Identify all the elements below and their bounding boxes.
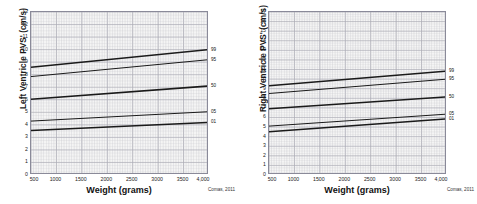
x-tick-label: 1500: [313, 176, 325, 182]
x-tick-label: 2500: [364, 176, 376, 182]
y-tick-label: 9: [25, 58, 28, 64]
percentile-label-01: 01: [211, 119, 216, 124]
x-tick-label: 2000: [339, 176, 351, 182]
y-tick-label: 1: [25, 158, 28, 164]
y-tick-label: 17: [260, 8, 266, 14]
percentile-label-50: 50: [211, 82, 216, 87]
y-tick-label: 2: [263, 152, 266, 158]
percentile-label-01: 01: [449, 115, 454, 120]
y-tick-label: 5: [25, 108, 28, 114]
x-axis-title-left: Weight (grams): [20, 185, 218, 195]
plot-area-right: [268, 11, 446, 174]
y-axis-tick-labels-right: 01234567891011121314151617: [246, 11, 266, 174]
x-axis-title-right: Weight (grams): [258, 185, 456, 195]
percentile-line-50: [31, 86, 208, 99]
y-tick-label: 0: [25, 171, 28, 177]
x-tick-label: 1000: [50, 176, 62, 182]
x-tick-label: 3000: [151, 176, 163, 182]
y-tick-label: 2: [25, 146, 28, 152]
y-tick-label: 7: [25, 83, 28, 89]
citation-left: Comas, 2011: [208, 187, 235, 192]
percentile-line-05: [269, 114, 446, 126]
x-tick-label: 3500: [415, 176, 427, 182]
x-tick-label: 1500: [75, 176, 87, 182]
y-tick-label: 13: [22, 8, 28, 14]
right-ventricle-chart-panel: Right Ventricle PVS' (cm/s) 012345678910…: [238, 0, 477, 204]
y-tick-label: 11: [261, 66, 266, 72]
percentile-line-99: [269, 71, 446, 86]
percentile-label-95: 95: [211, 56, 216, 61]
x-tick-label: 2000: [101, 176, 113, 182]
percentile-label-50: 50: [449, 93, 454, 98]
y-tick-label: 12: [260, 56, 266, 62]
y-tick-label: 10: [260, 75, 266, 81]
percentile-line-99: [31, 50, 208, 68]
y-tick-label: 6: [25, 96, 28, 102]
y-tick-label: 3: [263, 142, 266, 148]
y-tick-label: 4: [25, 121, 28, 127]
percentile-labels-right: 9995500501: [447, 11, 477, 174]
y-tick-label: 3: [25, 133, 28, 139]
y-tick-label: 1: [263, 161, 266, 167]
x-tick-label: 4,000: [197, 176, 210, 182]
plot-area-left: [30, 11, 208, 174]
percentile-line-05: [31, 112, 208, 121]
y-tick-label: 13: [260, 46, 266, 52]
x-tick-label: 1000: [288, 176, 300, 182]
y-axis-tick-labels-left: 012345678910111213: [8, 11, 28, 174]
plot-lines-left: [31, 12, 208, 174]
citation-right: Comas, 2011: [447, 187, 474, 192]
y-tick-label: 0: [263, 171, 266, 177]
x-tick-label: 3500: [177, 176, 189, 182]
y-tick-label: 15: [260, 27, 266, 33]
y-tick-label: 11: [23, 33, 28, 39]
y-tick-label: 7: [263, 104, 266, 110]
x-tick-label: 4,000: [435, 176, 448, 182]
y-tick-label: 14: [260, 37, 266, 43]
y-tick-label: 6: [263, 113, 266, 119]
percentile-labels-left: 9995500501: [209, 11, 239, 174]
y-tick-label: 5: [263, 123, 266, 129]
percentile-label-99: 99: [211, 46, 216, 51]
percentile-label-05: 05: [211, 108, 216, 113]
y-tick-label: 10: [22, 46, 28, 52]
x-tick-label: 2500: [126, 176, 138, 182]
percentile-line-01: [31, 122, 208, 130]
y-tick-label: 4: [263, 133, 266, 139]
y-tick-label: 8: [263, 94, 266, 100]
y-tick-label: 12: [22, 21, 28, 27]
percentile-label-95: 95: [449, 76, 454, 81]
percentile-line-01: [269, 119, 446, 132]
x-tick-label: 500: [268, 176, 277, 182]
left-ventricle-chart-panel: Left Ventricle PVS' (cm/s) 0123456789101…: [0, 0, 238, 204]
two-panel-nomogram-figure: Left Ventricle PVS' (cm/s) 0123456789101…: [0, 0, 477, 204]
y-tick-label: 16: [260, 18, 266, 24]
x-tick-label: 3000: [389, 176, 401, 182]
x-tick-label: 500: [30, 176, 39, 182]
y-tick-label: 8: [25, 71, 28, 77]
y-tick-label: 9: [263, 85, 266, 91]
percentile-line-50: [269, 97, 446, 109]
percentile-label-99: 99: [449, 67, 454, 72]
plot-lines-right: [269, 12, 446, 174]
